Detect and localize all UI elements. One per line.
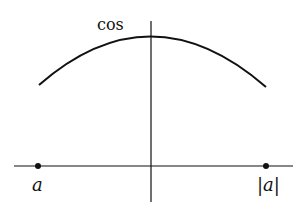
diagram-canvas: cos a |a| [0, 0, 305, 212]
point-abs-a [263, 163, 269, 169]
label-a: a [32, 174, 43, 195]
point-a [35, 163, 41, 169]
label-abs-a: |a| [257, 174, 280, 196]
cos-label: cos [97, 15, 124, 34]
cos-curve [39, 36, 266, 87]
